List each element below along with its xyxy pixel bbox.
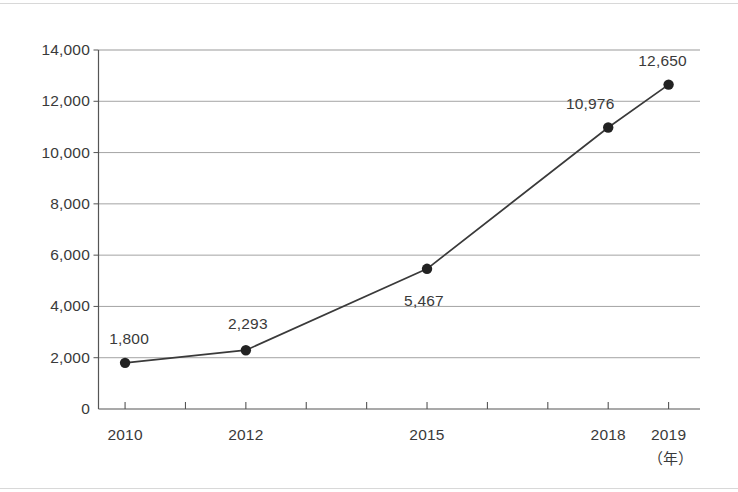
data-point-marker[interactable] — [663, 79, 673, 89]
data-point-marker[interactable] — [422, 264, 432, 274]
y-tick-label: 4,000 — [18, 298, 90, 314]
series-markers-group — [120, 79, 674, 368]
point-value-label: 2,293 — [228, 316, 268, 332]
data-point-marker[interactable] — [120, 358, 130, 368]
x-tick-label-2015: 2015 — [409, 427, 444, 443]
y-tick-label: 0 — [18, 401, 90, 417]
y-tick-label: 14,000 — [18, 42, 90, 58]
point-value-label: 12,650 — [638, 53, 687, 69]
point-value-label: 1,800 — [109, 331, 149, 347]
line-chart-figure: 14,00012,00010,0008,0006,0004,0002,0000 … — [0, 0, 738, 492]
y-tick-label: 12,000 — [18, 93, 90, 109]
series-line — [125, 85, 669, 363]
y-tick-label: 10,000 — [18, 145, 90, 161]
x-tick-label-2018: 2018 — [591, 427, 626, 443]
y-tick-label: 8,000 — [18, 196, 90, 212]
data-point-marker[interactable] — [603, 122, 613, 132]
x-tick-label-2012: 2012 — [228, 427, 263, 443]
point-value-label: 10,976 — [566, 96, 615, 112]
x-axis-unit-label: （年） — [648, 451, 693, 466]
point-value-label: 5,467 — [404, 293, 444, 309]
y-tick-label: 2,000 — [18, 350, 90, 366]
x-tick-label-2019: 2019 — [651, 427, 686, 443]
x-tick-label-2010: 2010 — [107, 427, 142, 443]
plot-canvas — [0, 0, 738, 492]
y-tick-label: 6,000 — [18, 247, 90, 263]
chart-page: 14,00012,00010,0008,0006,0004,0002,0000 … — [0, 0, 738, 492]
data-point-marker[interactable] — [241, 345, 251, 355]
